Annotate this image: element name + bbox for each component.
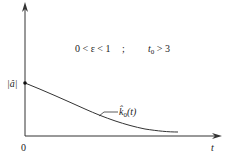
- curve-label-leader: [99, 112, 118, 116]
- condition-separator: ;: [122, 43, 125, 54]
- x-axis-label: t: [211, 142, 214, 153]
- condition-epsilon: 0 < ε < 1: [75, 43, 110, 54]
- condition-t0: t0 > 3: [148, 43, 170, 56]
- y-start-label: |â|: [7, 78, 18, 89]
- curve-label: k̂0(t): [119, 105, 137, 119]
- decay-diagram: 0 < ε < 1 ; t0 > 3 |â| 0 t k̂0(t): [0, 0, 230, 157]
- curve-start-marker: [23, 81, 27, 85]
- origin-label: 0: [21, 142, 26, 153]
- decay-curve: [25, 83, 178, 132]
